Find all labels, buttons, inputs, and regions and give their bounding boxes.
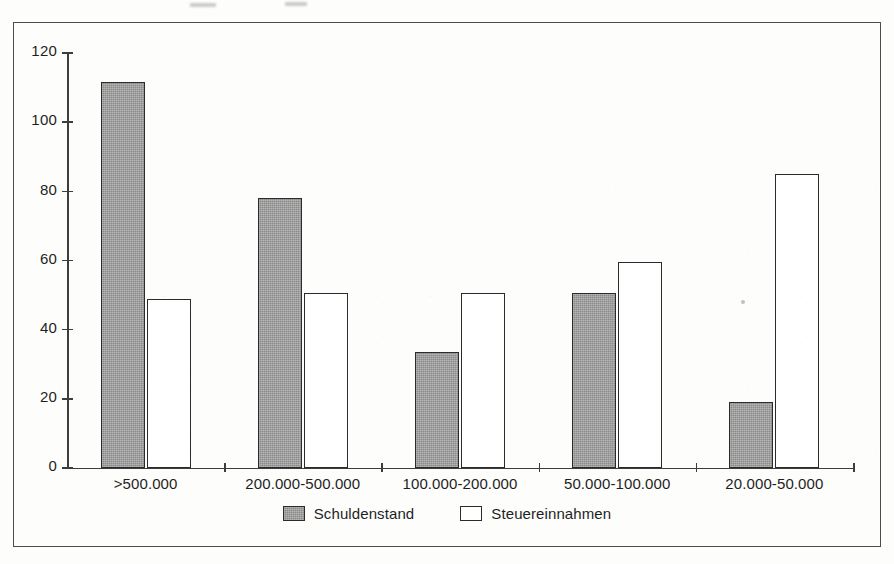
chart-frame [13, 22, 881, 547]
legend-label: Schuldenstand [314, 505, 415, 522]
scanned-page: 020406080100120 >500.000200.000-500.0001… [0, 0, 894, 564]
filled-square-icon [283, 506, 305, 521]
legend-item-schuldenstand: Schuldenstand [283, 505, 415, 522]
scan-artifact [190, 3, 216, 7]
chart-legend: SchuldenstandSteuereinnahmen [0, 505, 894, 522]
legend-item-steuereinnahmen: Steuereinnahmen [460, 505, 611, 522]
scan-artifact [285, 2, 307, 6]
outline-square-icon [460, 506, 482, 521]
legend-label: Steuereinnahmen [491, 505, 611, 522]
